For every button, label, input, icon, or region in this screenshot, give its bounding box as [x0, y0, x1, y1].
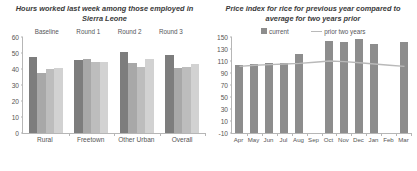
- left-x-axis-labels: RuralFreetownOther UrbanOverall: [22, 136, 205, 143]
- bar: [191, 64, 200, 133]
- legend-line-icon: [311, 31, 322, 32]
- bar: [54, 68, 63, 133]
- y-axis-tick-mark: [230, 121, 233, 122]
- bar: [29, 57, 38, 133]
- legend-item-prior-two-years: prior two years: [311, 28, 366, 35]
- bar-column: [396, 37, 411, 133]
- x-axis-tick-label: Oct: [321, 136, 336, 143]
- bar-column: [262, 37, 277, 133]
- legend-swatch-icon: [68, 28, 74, 34]
- y-axis-tick-label: 130: [217, 46, 228, 53]
- x-axis-tick-label: Overall: [159, 136, 205, 143]
- y-axis-tick-label: 60: [12, 34, 19, 41]
- y-axis-tick-label: 30: [221, 106, 228, 113]
- x-axis-tick-label: Feb: [381, 136, 396, 143]
- right-bar-columns: [232, 37, 411, 133]
- y-axis-tick-mark: [230, 73, 233, 74]
- bar: [295, 54, 303, 133]
- y-axis-tick-mark: [21, 101, 24, 102]
- right-y-axis: 1501301109070503010-10: [213, 37, 230, 153]
- bar-group: [23, 37, 69, 133]
- legend-label: Round 2: [118, 28, 142, 35]
- bar: [37, 73, 46, 133]
- bar-column: [322, 37, 337, 133]
- bar-group: [69, 37, 115, 133]
- bar: [370, 44, 378, 133]
- x-axis-tick-label: Jun: [261, 136, 276, 143]
- bar-column: [292, 37, 307, 133]
- legend-swatch-icon: [26, 28, 32, 34]
- legend-swatch-icon: [261, 28, 267, 34]
- y-axis-tick-label: 110: [217, 58, 228, 65]
- left-chart-title: Hours worked last week among those emplo…: [0, 0, 209, 24]
- legend-item-current: current: [261, 28, 289, 35]
- y-axis-tick-mark: [230, 85, 233, 86]
- legend-label: Round 1: [76, 28, 100, 35]
- y-axis-tick-mark: [230, 97, 233, 98]
- left-plot-area: [22, 37, 205, 134]
- x-axis-tick-label: Freetown: [68, 136, 114, 143]
- bar: [74, 60, 83, 133]
- bar-column: [307, 37, 322, 133]
- legend-label: current: [269, 28, 289, 35]
- bar-column: [366, 37, 381, 133]
- y-axis-tick-label: 0: [15, 130, 19, 137]
- bar: [120, 52, 129, 133]
- dual-chart-figure: Hours worked last week among those emplo…: [0, 0, 417, 171]
- y-axis-tick-label: 10: [221, 118, 228, 125]
- y-axis-tick-mark: [230, 49, 233, 50]
- x-axis-tick-mark: [411, 133, 412, 136]
- bar: [265, 63, 273, 133]
- left-chart-legend: Baseline Round 1 Round 2 Round 3: [0, 26, 209, 36]
- legend-item-baseline: Baseline: [26, 28, 59, 35]
- y-axis-tick-mark: [230, 61, 233, 62]
- y-axis-tick-label: -10: [218, 130, 228, 137]
- bar-column: [247, 37, 262, 133]
- legend-item-round-3: Round 3: [150, 28, 182, 35]
- right-plot-area: [231, 37, 411, 134]
- bar: [165, 55, 174, 133]
- y-axis-tick-mark: [230, 37, 233, 38]
- legend-swatch-icon: [150, 28, 156, 34]
- legend-item-round-1: Round 1: [68, 28, 100, 35]
- y-axis-tick-label: 90: [221, 70, 228, 77]
- hours-worked-chart: Hours worked last week among those emplo…: [0, 0, 209, 171]
- bar: [325, 41, 333, 133]
- bar-column: [232, 37, 247, 133]
- x-axis-tick-label: May: [246, 136, 261, 143]
- bar: [235, 65, 243, 133]
- left-y-axis: 6050403020100: [4, 37, 21, 149]
- bar-column: [277, 37, 292, 133]
- rice-price-index-chart: Price index for rice for previous year c…: [209, 0, 417, 171]
- x-axis-tick-label: Sep: [306, 136, 321, 143]
- y-axis-tick-mark: [21, 117, 24, 118]
- y-axis-tick-label: 10: [12, 114, 19, 121]
- y-axis-tick-label: 150: [217, 34, 228, 41]
- legend-swatch-icon: [109, 28, 115, 34]
- y-axis-tick-mark: [21, 53, 24, 54]
- bar: [355, 39, 363, 133]
- y-axis-tick-mark: [230, 133, 233, 134]
- x-axis-tick-label: Nov: [336, 136, 351, 143]
- legend-label: prior two years: [324, 28, 365, 35]
- bar: [91, 62, 100, 133]
- right-chart-legend: current prior two years: [209, 26, 417, 36]
- bar: [83, 59, 92, 133]
- bar: [128, 63, 137, 133]
- y-axis-tick-mark: [230, 109, 233, 110]
- x-axis-tick-mark: [205, 133, 206, 136]
- bar: [340, 42, 348, 133]
- y-axis-tick-mark: [21, 85, 24, 86]
- x-axis-tick-label: Rural: [22, 136, 68, 143]
- bar: [174, 68, 183, 133]
- bar: [250, 64, 258, 133]
- y-axis-tick-label: 50: [221, 94, 228, 101]
- bar-group: [114, 37, 160, 133]
- bar: [182, 67, 191, 133]
- y-axis-tick-label: 70: [221, 82, 228, 89]
- x-axis-tick-label: Aug: [291, 136, 306, 143]
- right-chart-title: Price index for rice for previous year c…: [209, 0, 417, 24]
- bar-column: [381, 37, 396, 133]
- bar: [280, 63, 288, 133]
- right-plot-wrap: 1501301109070503010-10 AprMayJunJulAugSe…: [213, 37, 411, 153]
